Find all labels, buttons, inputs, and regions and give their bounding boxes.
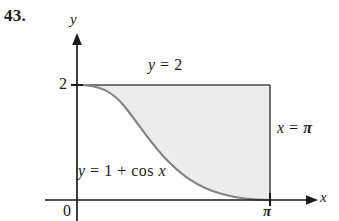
annotation-line-x-equals-pi: x = π xyxy=(277,120,312,136)
x-axis-arrowhead xyxy=(306,195,318,205)
y-axis-arrowhead xyxy=(72,33,82,45)
plot-area xyxy=(0,0,339,221)
annotation-line-y-equals-2: y = 2 xyxy=(148,57,183,73)
x-axis-label: x xyxy=(320,190,327,205)
exercise-number: 43. xyxy=(4,7,26,24)
origin-label-0: 0 xyxy=(63,203,71,219)
annotation-curve-equation: y = 1 + cos x xyxy=(78,163,166,179)
y-axis-label: y xyxy=(70,12,77,27)
shaded-region xyxy=(77,85,270,200)
figure-exercise-43: 43. y x 2 0 π y = 2 y = 1 + cos x x = π xyxy=(0,0,339,221)
x-tick-label-pi: π xyxy=(263,204,271,219)
y-tick-label-2: 2 xyxy=(59,76,67,92)
